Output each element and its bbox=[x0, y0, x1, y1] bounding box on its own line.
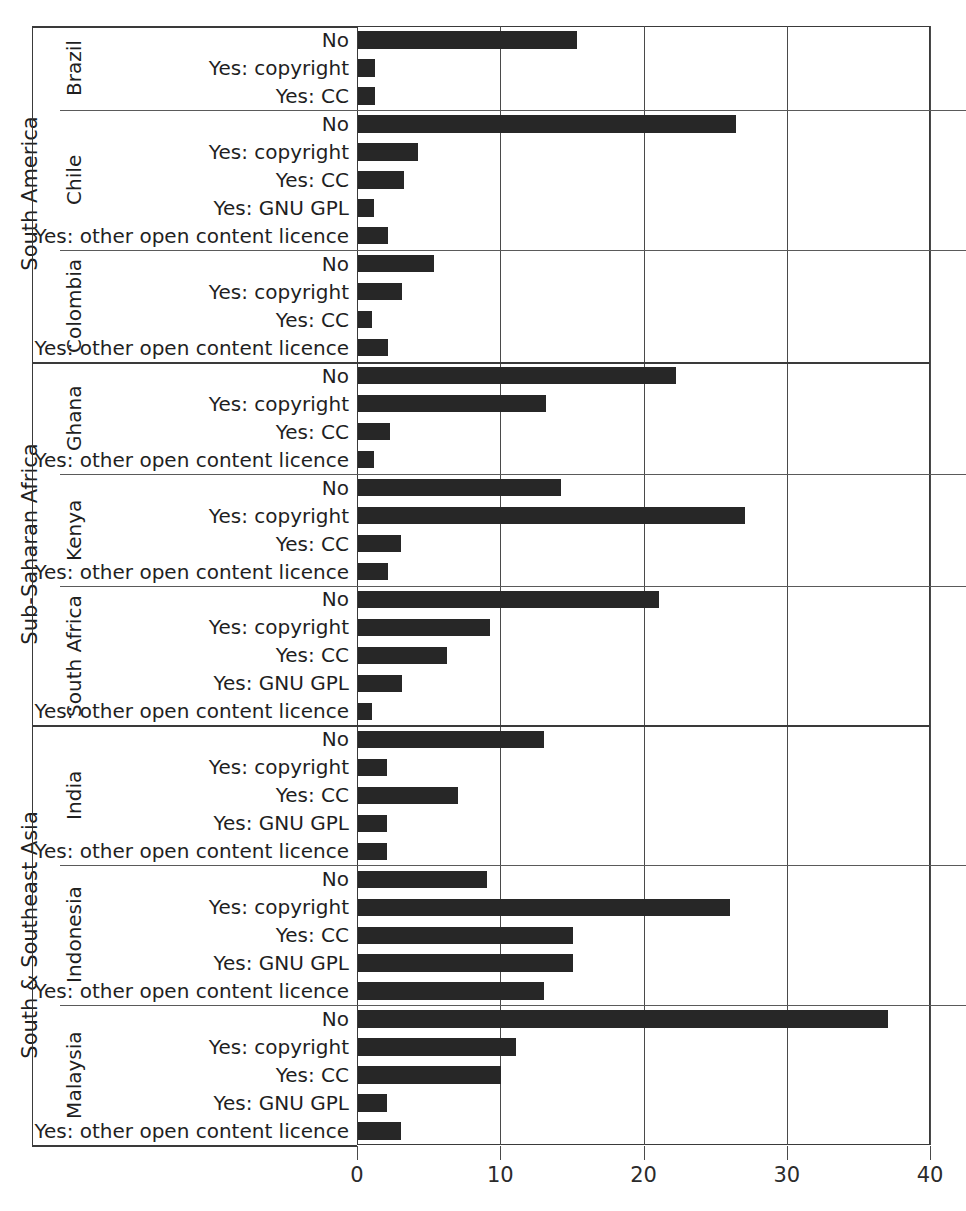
category-label: Yes: CC bbox=[276, 643, 349, 667]
label-block-left-border bbox=[32, 26, 33, 1145]
bar bbox=[358, 255, 434, 272]
category-label: No bbox=[322, 587, 349, 611]
bar bbox=[358, 982, 544, 999]
bar bbox=[358, 367, 676, 384]
category-label: Yes: copyright bbox=[209, 895, 349, 919]
category-label: Yes: GNU GPL bbox=[213, 671, 349, 695]
bar bbox=[358, 199, 374, 216]
category-label: No bbox=[322, 476, 349, 500]
bar bbox=[358, 1122, 401, 1139]
bar bbox=[358, 339, 388, 356]
category-label: No bbox=[322, 112, 349, 136]
country-label-south-africa: South Africa bbox=[62, 586, 86, 726]
bar bbox=[358, 899, 730, 916]
category-label: Yes: GNU GPL bbox=[213, 951, 349, 975]
x-tick-10 bbox=[500, 1146, 501, 1160]
bar bbox=[358, 1066, 501, 1083]
x-tick-label-40: 40 bbox=[917, 1163, 944, 1187]
x-tick-20 bbox=[644, 1146, 645, 1160]
category-label: Yes: copyright bbox=[209, 615, 349, 639]
category-label: No bbox=[322, 727, 349, 751]
category-label: Yes: CC bbox=[276, 308, 349, 332]
bar bbox=[358, 143, 418, 160]
country-separator bbox=[60, 865, 966, 866]
bar bbox=[358, 59, 375, 76]
category-label: Yes: CC bbox=[276, 84, 349, 108]
bar bbox=[358, 311, 372, 328]
category-label: No bbox=[322, 364, 349, 388]
bar bbox=[358, 1010, 888, 1027]
bar bbox=[358, 591, 659, 608]
country-separator bbox=[60, 110, 966, 111]
horizontal-bar-chart: 010203040 NoYes: copyrightYes: CCNoYes: … bbox=[0, 0, 966, 1211]
bar bbox=[358, 703, 372, 720]
bar bbox=[358, 1038, 516, 1055]
category-label: No bbox=[322, 1007, 349, 1031]
region-separator bbox=[32, 725, 930, 727]
bar bbox=[358, 479, 561, 496]
bar bbox=[358, 759, 387, 776]
label-block-bottom-border bbox=[32, 1145, 357, 1147]
category-label: Yes: copyright bbox=[209, 280, 349, 304]
label-block-top-border bbox=[32, 26, 357, 28]
category-label: No bbox=[322, 252, 349, 276]
category-label: No bbox=[322, 867, 349, 891]
region-label-south-america: South America bbox=[18, 26, 42, 362]
region-label-sub-saharan-africa: Sub-Saharan Africa bbox=[18, 362, 42, 726]
bar bbox=[358, 815, 387, 832]
category-label: Yes: CC bbox=[276, 783, 349, 807]
country-separator bbox=[60, 586, 966, 587]
country-label-ghana: Ghana bbox=[62, 362, 86, 474]
country-label-india: India bbox=[62, 725, 86, 865]
country-separator bbox=[60, 250, 966, 251]
category-label: Yes: copyright bbox=[209, 392, 349, 416]
bar bbox=[358, 171, 404, 188]
category-label: Yes: copyright bbox=[209, 1035, 349, 1059]
bar bbox=[358, 619, 490, 636]
country-label-brazil: Brazil bbox=[62, 26, 86, 110]
x-tick-label-10: 10 bbox=[487, 1163, 514, 1187]
category-label: Yes: GNU GPL bbox=[213, 1091, 349, 1115]
country-label-kenya: Kenya bbox=[62, 474, 86, 586]
category-label: Yes: CC bbox=[276, 532, 349, 556]
x-tick-label-0: 0 bbox=[350, 1163, 363, 1187]
category-label: Yes: GNU GPL bbox=[213, 811, 349, 835]
country-label-malaysia: Malaysia bbox=[62, 1005, 86, 1145]
category-label: Yes: CC bbox=[276, 1063, 349, 1087]
bar bbox=[358, 675, 402, 692]
x-tick-40 bbox=[930, 1146, 931, 1160]
category-label: Yes: CC bbox=[276, 420, 349, 444]
bar bbox=[358, 535, 401, 552]
category-label: Yes: copyright bbox=[209, 504, 349, 528]
bar bbox=[358, 115, 736, 132]
bar bbox=[358, 227, 388, 244]
country-separator bbox=[60, 474, 966, 475]
category-label: Yes: CC bbox=[276, 168, 349, 192]
x-tick-label-20: 20 bbox=[630, 1163, 657, 1187]
bar bbox=[358, 731, 544, 748]
bar bbox=[358, 283, 402, 300]
country-label-indonesia: Indonesia bbox=[62, 865, 86, 1005]
bar bbox=[358, 647, 447, 664]
region-label-south-southeast-asia: South & Southeast Asia bbox=[18, 725, 42, 1145]
category-label: Yes: copyright bbox=[209, 140, 349, 164]
bar bbox=[358, 87, 375, 104]
bar bbox=[358, 871, 487, 888]
region-separator bbox=[32, 362, 930, 364]
bar bbox=[358, 31, 577, 48]
x-tick-30 bbox=[787, 1146, 788, 1160]
bar bbox=[358, 954, 573, 971]
bar bbox=[358, 423, 390, 440]
chart-page: 010203040 NoYes: copyrightYes: CCNoYes: … bbox=[0, 0, 966, 1211]
country-label-chile: Chile bbox=[62, 110, 86, 250]
category-label: No bbox=[322, 28, 349, 52]
x-tick-label-30: 30 bbox=[773, 1163, 800, 1187]
x-tick-0 bbox=[357, 1146, 358, 1160]
country-label-colombia: Colombia bbox=[62, 250, 86, 362]
category-label: Yes: CC bbox=[276, 923, 349, 947]
category-label: Yes: copyright bbox=[209, 56, 349, 80]
category-label: Yes: GNU GPL bbox=[213, 196, 349, 220]
bar bbox=[358, 927, 573, 944]
bar bbox=[358, 395, 546, 412]
bar bbox=[358, 787, 458, 804]
